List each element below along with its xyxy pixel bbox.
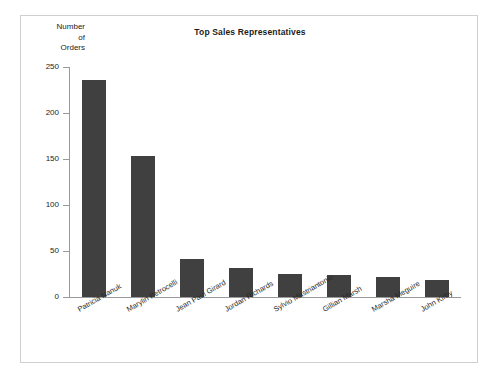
y-axis-tick-label: 200 bbox=[21, 108, 59, 117]
y-axis-tick bbox=[63, 297, 70, 298]
bar bbox=[82, 80, 106, 297]
y-axis-title: Number of Orders bbox=[25, 22, 85, 54]
y-axis-tick-label: 150 bbox=[21, 154, 59, 163]
y-axis-tick-label: 100 bbox=[21, 200, 59, 209]
y-axis-tick-label: 250 bbox=[21, 62, 59, 71]
chart-frame: Top Sales Representatives Number of Orde… bbox=[20, 15, 478, 363]
chart-title: Top Sales Representatives bbox=[21, 27, 479, 37]
bar bbox=[131, 156, 155, 297]
y-axis-tick-label: 0 bbox=[21, 292, 59, 301]
y-axis-title-line-2: of bbox=[25, 33, 85, 44]
plot-area bbox=[69, 67, 461, 297]
y-axis-title-line-1: Number bbox=[25, 22, 85, 33]
y-axis-title-line-3: Orders bbox=[25, 43, 85, 54]
y-axis-tick-label: 50 bbox=[21, 246, 59, 255]
